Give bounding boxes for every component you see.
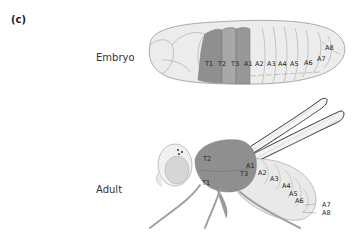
svg-text:A2: A2: [255, 60, 264, 68]
svg-text:A1: A1: [246, 162, 255, 170]
svg-text:T2: T2: [217, 60, 226, 68]
diagram-canvas: T1 T2 T3 A1 A2 A3 A4 A5 A6 A7 A8: [0, 0, 355, 236]
svg-text:A7: A7: [322, 201, 331, 209]
svg-text:T1: T1: [201, 179, 210, 187]
svg-text:A4: A4: [278, 60, 287, 68]
svg-text:A3: A3: [267, 60, 276, 68]
svg-text:A4: A4: [282, 182, 291, 190]
svg-text:T2: T2: [202, 155, 211, 163]
svg-text:A8: A8: [322, 209, 331, 217]
adult-fly-illustration: T2 T1 T3 A1 A2 A3 A4 A5 A6 A7 A8: [150, 98, 344, 228]
svg-text:T3: T3: [230, 60, 239, 68]
svg-text:T1: T1: [204, 60, 213, 68]
svg-text:A3: A3: [270, 175, 279, 183]
svg-text:A8: A8: [325, 44, 334, 52]
svg-text:A2: A2: [258, 169, 267, 177]
svg-text:A1: A1: [244, 60, 253, 68]
svg-text:A7: A7: [317, 55, 326, 63]
embryo-illustration: T1 T2 T3 A1 A2 A3 A4 A5 A6 A7 A8: [149, 20, 345, 84]
svg-text:T3: T3: [239, 170, 248, 178]
svg-text:A5: A5: [290, 60, 299, 68]
svg-text:A6: A6: [295, 197, 304, 205]
svg-text:A6: A6: [304, 59, 313, 67]
